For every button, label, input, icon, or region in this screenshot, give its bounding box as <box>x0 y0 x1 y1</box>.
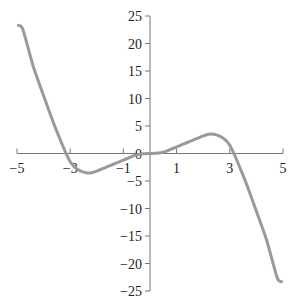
y-tick-label: 10 <box>128 92 142 107</box>
y-tick-label: 25 <box>128 9 142 24</box>
x-tick-label: 5 <box>280 161 287 176</box>
y-tick-label: 20 <box>128 37 142 52</box>
chart: −5−3−1135 2520151050−5−10−15−20−25 <box>0 0 290 305</box>
y-tick-label: −15 <box>120 229 142 244</box>
y-tick-label: 5 <box>135 119 142 134</box>
y-tick-label: −20 <box>120 257 142 272</box>
x-tick-label: 3 <box>226 161 233 176</box>
x-tick-label: 1 <box>173 161 180 176</box>
x-tick-label: −5 <box>10 161 25 176</box>
y-tick-label: 15 <box>128 64 142 79</box>
y-tick-label: −10 <box>120 202 142 217</box>
y-tick-label: −25 <box>120 284 142 299</box>
y-tick-label: −5 <box>127 174 142 189</box>
